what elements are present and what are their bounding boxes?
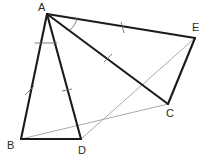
tick-on-AE: [121, 22, 124, 33]
geometry-figure: A B C D E: [0, 0, 212, 164]
segment-AE: [47, 14, 195, 38]
angle-arc-EAC: [70, 18, 77, 30]
geometry-canvas: [0, 0, 212, 164]
segment-BC: [21, 104, 168, 139]
segment-AD: [47, 14, 81, 139]
vertex-label-B: B: [7, 140, 14, 151]
vertex-label-E: E: [192, 22, 199, 33]
vertex-label-C: C: [166, 108, 174, 119]
vertex-label-D: D: [78, 145, 86, 156]
segment-EC: [168, 38, 195, 104]
segment-AB: [21, 14, 47, 139]
vertex-label-A: A: [38, 2, 45, 13]
